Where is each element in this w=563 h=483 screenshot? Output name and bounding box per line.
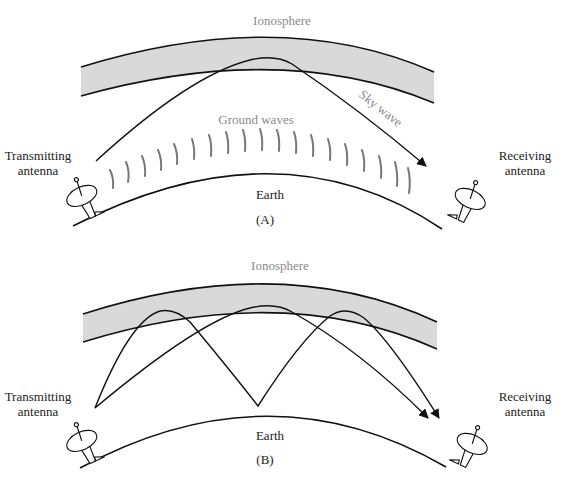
- radio-propagation-diagram: Ionosphere Earth (A) Sky wave Ground wav…: [0, 0, 563, 483]
- receiver-label-line1: Receiving: [499, 148, 552, 163]
- transmitter-label-line2: antenna: [18, 163, 59, 178]
- earth-label: Earth: [256, 428, 285, 443]
- receiver-label-line1: Receiving: [499, 389, 552, 404]
- transmitter-label-line1: Transmitting: [5, 148, 72, 163]
- transmitting-antenna-icon: [59, 172, 106, 224]
- earth-label: Earth: [256, 187, 285, 202]
- panel-caption: (B): [256, 452, 273, 467]
- sky-wave-label: Sky wave: [356, 87, 406, 130]
- receiver-label-line2: antenna: [505, 404, 546, 419]
- transmitting-antenna-icon: [59, 417, 106, 469]
- ground-waves-label: Ground waves: [218, 112, 293, 127]
- panel-a: Ionosphere Earth (A) Sky wave Ground wav…: [5, 13, 552, 229]
- transmitter-label-line1: Transmitting: [5, 389, 72, 404]
- ionosphere-label: Ionosphere: [253, 13, 311, 28]
- receiver-label-line2: antenna: [505, 163, 546, 178]
- transmitter-label-line2: antenna: [18, 404, 59, 419]
- panel-b: Ionosphere Earth (B) Transmitting antenn…: [5, 258, 552, 472]
- receiving-antenna-icon: [448, 420, 495, 472]
- ground-waves: [110, 129, 410, 193]
- panel-caption: (A): [256, 212, 274, 227]
- ionosphere-label: Ionosphere: [251, 258, 309, 273]
- receiving-antenna-icon: [446, 175, 493, 227]
